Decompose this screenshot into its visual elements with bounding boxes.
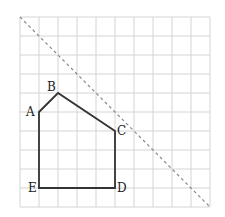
vertex-label-a: A (25, 105, 35, 119)
vertex-label-b: B (47, 80, 56, 94)
geometry-diagram: A B C D E (0, 0, 225, 217)
vertex-label-d: D (117, 181, 127, 195)
vertex-label-c: C (117, 124, 126, 138)
vertex-label-e: E (28, 181, 37, 195)
